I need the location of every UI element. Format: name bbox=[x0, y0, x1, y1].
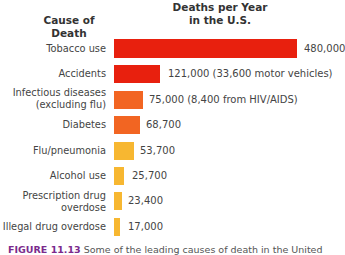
header-deaths-line2: in the U.S. bbox=[160, 14, 280, 27]
bar-alcohol bbox=[114, 167, 124, 185]
value-label: 23,400 bbox=[128, 195, 163, 207]
header-deaths: Deaths per Year in the U.S. bbox=[160, 1, 280, 27]
value-label: 75,000 (8,400 from HIV/AIDS) bbox=[149, 94, 298, 106]
category-label: Prescription drugoverdose bbox=[22, 190, 106, 213]
category-label: Illegal drug overdose bbox=[3, 221, 106, 233]
value-label: 17,000 bbox=[128, 221, 163, 233]
category-label: Alcohol use bbox=[50, 170, 106, 182]
header-cause: Cause of Death bbox=[28, 14, 110, 40]
bar-row: Illegal drug overdose 17,000 bbox=[0, 218, 344, 236]
category-label: Infectious diseases(excluding flu) bbox=[13, 87, 106, 110]
figure-number: FIGURE 11.13 bbox=[8, 244, 81, 255]
category-label: Diabetes bbox=[63, 119, 107, 131]
bar-row: Prescription drugoverdose 23,400 bbox=[0, 192, 344, 210]
category-label: Flu/pneumonia bbox=[33, 145, 106, 157]
bar-infectious bbox=[114, 91, 143, 109]
bar-row: Flu/pneumonia 53,700 bbox=[0, 142, 344, 160]
value-label: 121,000 (33,600 motor vehicles) bbox=[168, 68, 333, 80]
bar-row: Accidents 121,000 (33,600 motor vehicles… bbox=[0, 65, 344, 83]
bar-prescription bbox=[114, 192, 122, 210]
header-deaths-line1: Deaths per Year bbox=[160, 1, 280, 14]
figure-caption: FIGURE 11.13 Some of the leading causes … bbox=[8, 244, 323, 255]
bar-tobacco bbox=[114, 39, 297, 58]
bar-accidents bbox=[114, 65, 160, 83]
value-label: 68,700 bbox=[146, 119, 181, 131]
bar-row: Tobacco use 480,000 bbox=[0, 39, 344, 59]
value-label: 25,700 bbox=[132, 170, 167, 182]
bar-row: Alcohol use 25,700 bbox=[0, 167, 344, 185]
bar-row: Diabetes 68,700 bbox=[0, 116, 344, 134]
caption-text: Some of the leading causes of death in t… bbox=[81, 244, 323, 255]
bar-flu bbox=[114, 142, 134, 160]
value-label: 480,000 bbox=[304, 43, 345, 55]
bar-row: Infectious diseases(excluding flu) 75,00… bbox=[0, 91, 344, 109]
category-label: Accidents bbox=[59, 68, 106, 80]
bar-illegal bbox=[114, 218, 120, 236]
value-label: 53,700 bbox=[140, 145, 175, 157]
bar-diabetes bbox=[114, 116, 140, 134]
category-label: Tobacco use bbox=[46, 43, 106, 55]
